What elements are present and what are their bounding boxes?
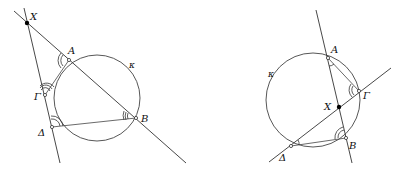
left-angle-mark-delta bbox=[51, 116, 63, 126]
right-point-gamma bbox=[357, 89, 360, 92]
left-label-a: A bbox=[67, 45, 75, 56]
right-circle-kappa bbox=[266, 53, 360, 147]
left-point-gamma bbox=[43, 93, 46, 96]
right-angle-mark-gamma bbox=[349, 84, 354, 97]
diagram-canvas: X A Γ Δ B κ bbox=[0, 0, 406, 169]
left-point-x bbox=[25, 21, 29, 25]
right-label-kappa: κ bbox=[267, 69, 274, 79]
left-point-delta bbox=[50, 125, 53, 128]
left-angle-mark-a bbox=[58, 53, 63, 68]
left-secant-xgd bbox=[24, 8, 60, 163]
right-point-x bbox=[337, 105, 341, 109]
left-circle-kappa bbox=[54, 55, 140, 141]
left-point-b bbox=[134, 116, 137, 119]
left-point-a bbox=[67, 58, 70, 61]
left-label-kappa: κ bbox=[128, 60, 135, 70]
right-label-gamma: Γ bbox=[362, 90, 371, 101]
right-angle-mark-a bbox=[329, 64, 334, 66]
left-label-gamma: Γ bbox=[33, 91, 42, 102]
left-label-delta: Δ bbox=[37, 127, 45, 138]
right-point-delta bbox=[289, 144, 292, 147]
right-figure: A Γ X B Δ κ bbox=[266, 10, 391, 163]
right-line-dxg bbox=[269, 68, 391, 162]
right-label-x: X bbox=[323, 101, 332, 112]
right-chord-a-gamma bbox=[328, 58, 359, 91]
left-chord-a-gamma bbox=[45, 60, 69, 95]
right-label-b: B bbox=[348, 140, 356, 151]
left-label-x: X bbox=[29, 11, 38, 22]
left-secant-xab bbox=[14, 11, 186, 163]
left-label-b: B bbox=[140, 113, 148, 124]
right-point-b bbox=[344, 136, 347, 139]
right-label-a: A bbox=[330, 44, 338, 55]
left-figure: X A Γ Δ B κ bbox=[14, 8, 186, 163]
right-angle-mark-b bbox=[335, 127, 344, 139]
right-point-a bbox=[326, 56, 329, 59]
right-label-delta: Δ bbox=[278, 152, 286, 163]
